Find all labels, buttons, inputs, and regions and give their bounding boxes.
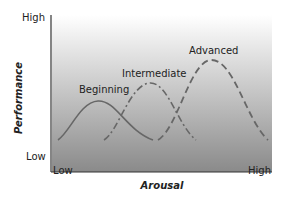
y-tick-low: Low — [26, 152, 46, 162]
series-label-beginning: Beginning — [79, 84, 129, 95]
y-tick-high: High — [22, 13, 45, 23]
series-label-intermediate: Intermediate — [122, 68, 187, 79]
x-axis-title: Arousal — [141, 180, 184, 191]
series-label-advanced: Advanced — [189, 45, 238, 56]
arousal-performance-chart: High Low Low High Performance Arousal Be… — [0, 0, 286, 199]
x-tick-low: Low — [53, 166, 73, 176]
x-tick-high: High — [248, 166, 271, 176]
chart-plot — [0, 0, 286, 199]
y-axis-title: Performance — [13, 62, 24, 134]
